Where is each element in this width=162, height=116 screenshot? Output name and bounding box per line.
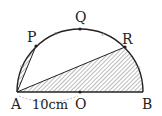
label-b: B — [142, 96, 152, 112]
point-o — [78, 90, 81, 93]
label-q: Q — [75, 9, 86, 25]
point-q — [78, 27, 81, 30]
label-r: R — [122, 31, 133, 47]
semicircle-diagram: P Q R A O B 10cm — [0, 0, 162, 116]
label-length: 10cm — [32, 97, 68, 112]
label-p: P — [27, 29, 36, 45]
shaded-region-arb — [17, 47, 143, 92]
label-o: O — [75, 96, 86, 112]
label-a: A — [10, 96, 22, 112]
